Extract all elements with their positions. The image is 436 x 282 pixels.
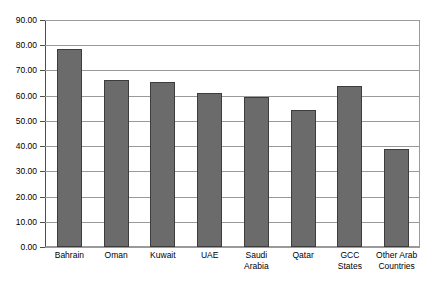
bar-slot — [46, 20, 93, 247]
y-axis-tick-label: 30.00 — [16, 165, 40, 177]
x-axis-category-label: Qatar — [280, 250, 327, 272]
bar — [57, 49, 82, 247]
y-axis-tick: 80.00 — [16, 39, 45, 51]
y-axis-tick-mark — [40, 171, 45, 172]
y-axis-tick-mark — [40, 146, 45, 147]
y-axis-tick: 40.00 — [16, 140, 45, 152]
y-axis-tick: 10.00 — [16, 216, 45, 228]
y-axis-tick-label: 60.00 — [16, 90, 40, 102]
bar — [104, 80, 129, 247]
bar — [244, 97, 269, 247]
bar — [197, 93, 222, 247]
x-axis-category-label: Bahrain — [46, 250, 93, 272]
x-axis-category-label: Other Arab Countries — [373, 250, 420, 272]
bar-chart: 90.0080.0070.0060.0050.0040.0030.0020.00… — [0, 0, 436, 282]
y-axis-tick: 70.00 — [16, 64, 45, 76]
y-axis-tick-mark — [40, 222, 45, 223]
y-axis-tick-mark — [40, 247, 45, 248]
y-axis-tick: 0.00 — [20, 241, 45, 253]
bar-slot — [140, 20, 187, 247]
y-axis-tick: 30.00 — [16, 165, 45, 177]
y-axis-tick-label: 10.00 — [16, 216, 40, 228]
bar — [384, 149, 409, 247]
y-axis: 90.0080.0070.0060.0050.0040.0030.0020.00… — [0, 20, 45, 247]
y-axis-tick-mark — [40, 70, 45, 71]
y-axis-tick-mark — [40, 197, 45, 198]
bar-series — [46, 20, 420, 247]
y-axis-tick-label: 50.00 — [16, 115, 40, 127]
x-axis-category-label: Saudi Arabia — [233, 250, 280, 272]
bar-slot — [327, 20, 374, 247]
y-axis-tick-mark — [40, 121, 45, 122]
y-axis-tick: 60.00 — [16, 90, 45, 102]
bar-slot — [233, 20, 280, 247]
x-axis: BahrainOmanKuwaitUAESaudi ArabiaQatarGCC… — [46, 250, 420, 272]
y-axis-tick-label: 90.00 — [16, 14, 40, 26]
gridline — [45, 247, 420, 248]
y-axis-tick-label: 0.00 — [20, 241, 40, 253]
y-axis-tick: 90.00 — [16, 14, 45, 26]
bar — [150, 82, 175, 247]
y-axis-tick-label: 20.00 — [16, 191, 40, 203]
y-axis-tick-label: 70.00 — [16, 64, 40, 76]
bar — [291, 110, 316, 247]
x-axis-category-label: GCC States — [327, 250, 374, 272]
y-axis-tick: 20.00 — [16, 191, 45, 203]
x-axis-category-label: UAE — [186, 250, 233, 272]
bar — [337, 86, 362, 247]
y-axis-tick-mark — [40, 96, 45, 97]
y-axis-tick-mark — [40, 20, 45, 21]
y-axis-tick-label: 40.00 — [16, 140, 40, 152]
bar-slot — [186, 20, 233, 247]
x-axis-category-label: Oman — [93, 250, 140, 272]
y-axis-tick-label: 80.00 — [16, 39, 40, 51]
bar-slot — [373, 20, 420, 247]
bar-slot — [93, 20, 140, 247]
y-axis-tick: 50.00 — [16, 115, 45, 127]
bar-slot — [280, 20, 327, 247]
y-axis-tick-mark — [40, 45, 45, 46]
x-axis-category-label: Kuwait — [140, 250, 187, 272]
